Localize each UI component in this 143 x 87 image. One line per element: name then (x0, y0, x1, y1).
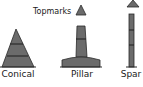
topmarks-label: Topmarks (33, 8, 71, 16)
topmark-triangle-icon (76, 5, 86, 15)
pillar-buoy-icon (60, 26, 102, 67)
conical-buoy-icon (0, 29, 36, 67)
spar-buoy-icon (126, 0, 139, 67)
pillar-label: Pillar (71, 70, 93, 79)
spar-label: Spar (121, 70, 142, 79)
conical-label: Conical (2, 70, 35, 79)
